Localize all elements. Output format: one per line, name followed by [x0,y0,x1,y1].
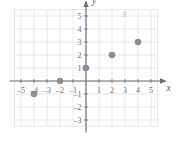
data-point: (-2, 0) [57,78,64,85]
x-axis-label: x [165,83,171,93]
y-axis-label: y [91,0,97,6]
data-point: (0, 1) [83,65,90,72]
x-tick-label: 4 [136,86,140,95]
y-tick-label: 1 [78,64,82,73]
figure-background [0,0,177,144]
y-tick-label: 4 [78,25,82,34]
x-tick-label: 5 [149,86,153,95]
data-point: (-4, -1) [31,91,38,98]
y-tick-label: –3 [73,116,82,125]
data-point: (2, 2) [109,52,116,59]
x-tick-label: 1 [97,86,101,95]
y-tick-label: 2 [78,51,82,60]
y-tick-label: 5 [78,12,82,21]
y-tick-label: –1 [73,90,82,99]
x-tick-label: 3 [123,86,127,95]
coordinate-plane-svg: –5–4–3–2–11234554321–1–2–3xyg(-4, -1)(-2… [0,0,177,144]
function-label-g: g [123,7,128,17]
x-tick-label: –5 [16,86,25,95]
y-tick-label: 3 [78,38,82,47]
y-tick-label: –2 [73,103,82,112]
x-tick-label: 2 [110,86,114,95]
x-tick-label: –2 [55,86,64,95]
data-point: (4, 3) [135,39,142,46]
x-tick-label: –3 [42,86,51,95]
coordinate-plane-figure: –5–4–3–2–11234554321–1–2–3xyg(-4, -1)(-2… [0,0,177,144]
